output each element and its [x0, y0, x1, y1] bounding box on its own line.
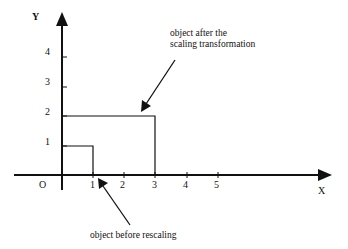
x-tick-label: 3: [152, 180, 157, 190]
after-pointer-line: [146, 60, 175, 104]
y-tick-label: 1: [45, 137, 50, 147]
y-tick-label: 3: [45, 77, 50, 87]
y-axis-arrow-icon: [56, 12, 68, 26]
before-pointer-arrow-icon: [98, 178, 108, 189]
x-tick-label: 5: [214, 180, 219, 190]
original-object-rect: [62, 146, 93, 175]
before-pointer-line: [103, 186, 130, 225]
y-axis-label: Y: [32, 12, 39, 22]
x-axis-arrow-icon: [318, 169, 332, 181]
origin-label: O: [39, 180, 46, 190]
after-pointer-arrow-icon: [141, 100, 151, 112]
x-axis-label: X: [318, 186, 325, 196]
x-tick-label: 2: [120, 180, 125, 190]
after-annotation: object after the scaling transformation: [170, 28, 255, 50]
x-tick-label: 1: [90, 180, 95, 190]
y-tick-label: 2: [45, 107, 50, 117]
x-tick-label: 4: [183, 180, 188, 190]
y-tick-label: 4: [45, 47, 50, 57]
before-annotation: object before rescaling: [90, 230, 177, 241]
